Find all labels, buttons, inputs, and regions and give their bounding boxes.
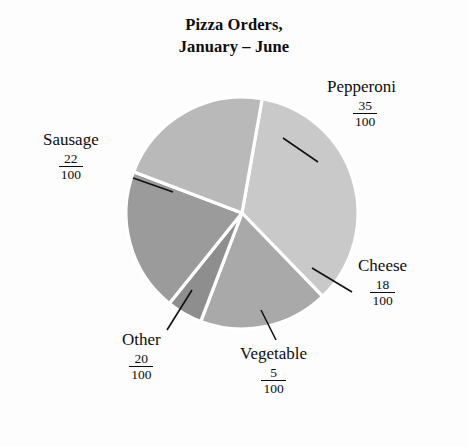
fraction-numerator: 5 [261,365,285,381]
slice-label-cheese-name: Cheese [358,257,407,275]
slice-label-other: Other 20 100 [122,331,161,382]
fraction-denominator: 100 [129,367,153,382]
fraction-vegetable: 5 100 [261,365,285,396]
slice-label-sausage-name: Sausage [43,131,99,149]
pie-chart-graphic [0,0,468,447]
slice-label-sausage: Sausage 22 100 [43,131,99,182]
fraction-sausage: 22 100 [59,151,83,182]
slice-value-cheese: 18 100 [358,277,407,308]
fraction-denominator: 100 [370,293,394,308]
slice-value-other: 20 100 [122,351,161,382]
slice-label-other-name: Other [122,331,161,349]
fraction-denominator: 100 [59,167,83,182]
slice-label-pepperoni-name: Pepperoni [327,78,396,96]
slice-label-cheese: Cheese 18 100 [358,257,407,308]
slice-value-vegetable: 5 100 [240,365,307,396]
fraction-cheese: 18 100 [370,277,394,308]
fraction-denominator: 100 [353,114,377,129]
fraction-pepperoni: 35 100 [353,98,377,129]
fraction-numerator: 22 [59,151,83,167]
slice-label-pepperoni: Pepperoni 35 100 [327,78,396,129]
slice-value-pepperoni: 35 100 [327,98,396,129]
fraction-numerator: 20 [129,351,153,367]
slice-label-vegetable-name: Vegetable [240,345,307,363]
fraction-numerator: 35 [353,98,377,114]
slice-value-sausage: 22 100 [43,151,99,182]
fraction-denominator: 100 [261,381,285,396]
slice-label-vegetable: Vegetable 5 100 [240,345,307,396]
fraction-other: 20 100 [129,351,153,382]
pie-slice-group [126,97,358,329]
fraction-numerator: 18 [370,277,394,293]
pie-chart-figure: Pizza Orders, January – June Pepperoni 3… [0,0,468,447]
